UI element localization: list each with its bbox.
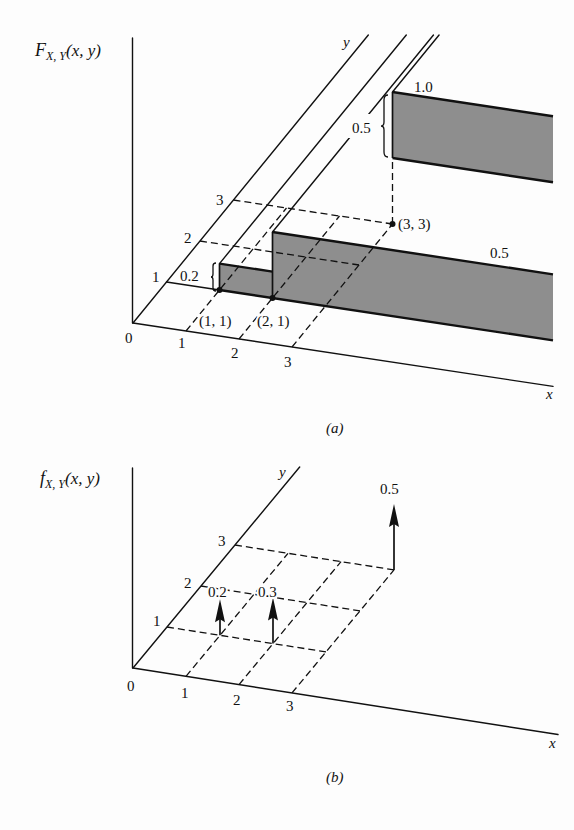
impulse-label-2-1: 0.3 (258, 584, 277, 600)
x-tick-3: 3 (284, 354, 292, 370)
caption-b: (b) (326, 769, 344, 786)
y-tick-1: 1 (152, 269, 160, 285)
y-tick-3: 3 (216, 192, 224, 208)
caption-a: (a) (326, 420, 344, 437)
y-tick-2: 2 (184, 575, 192, 591)
x-axis-label: x (545, 386, 553, 402)
level-label-plateau: 0.5 (490, 245, 509, 261)
x-tick-3: 3 (286, 698, 294, 714)
z-axis-args: (x, y) (66, 41, 101, 60)
y-tick-3: 3 (218, 533, 226, 549)
y-tick-1: 1 (153, 613, 161, 629)
x-tick-2: 2 (233, 692, 241, 708)
figure-canvas: FX, Y(x, y) y x 0 1 2 3 1 2 3 0.2 0.5 1.… (0, 0, 574, 830)
z-axis-label-cdf: FX, Y(x, y) (34, 40, 101, 63)
point-label-3-3: (3, 3) (398, 216, 431, 233)
x-tick-1: 1 (178, 335, 186, 351)
jump-label-at-1-1: 0.2 (180, 268, 199, 284)
jump-label-at-3-3: 0.5 (352, 120, 371, 136)
y-tick-2: 2 (184, 230, 192, 246)
z-axis-subscript: X, Y (44, 477, 66, 491)
point-label-1-1: (1, 1) (199, 313, 232, 330)
x-axis-label: x (548, 735, 556, 751)
step-point-2-1 (270, 295, 276, 301)
point-label-2-1: (2, 1) (257, 313, 290, 330)
origin-label: 0 (125, 330, 133, 346)
impulse-label-3-3: 0.5 (380, 481, 399, 497)
y-axis-label: y (277, 464, 286, 480)
x-tick-2: 2 (231, 345, 239, 361)
z-axis-args: (x, y) (65, 469, 100, 488)
level-label-top: 1.0 (414, 79, 433, 95)
origin-label: 0 (127, 678, 135, 694)
y-axis-label: y (341, 34, 350, 50)
x-tick-1: 1 (181, 685, 189, 701)
step-point-3-3 (390, 221, 396, 227)
step-point-1-1 (217, 287, 223, 293)
z-axis-subscript: X, Y (45, 49, 67, 63)
impulse-label-1-1: 0.2 (208, 584, 227, 600)
